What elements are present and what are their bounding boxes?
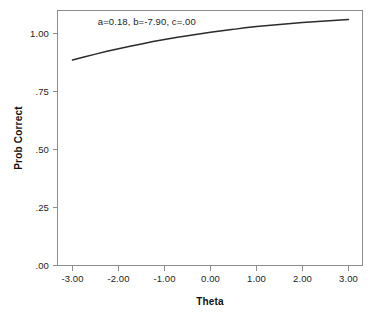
x-tick-label-neg1: -1.00 xyxy=(153,273,175,284)
y-axis-ticks xyxy=(53,34,58,266)
chart-container: 1.00 .75 .50 .25 .00 -3.00 -2.00 -1.00 0… xyxy=(0,0,384,320)
y-tick-label-000: .00 xyxy=(35,260,49,271)
y-tick-label-025: .25 xyxy=(35,202,49,213)
x-tick-label-1: 1.00 xyxy=(247,273,266,284)
x-axis-tick-labels: -3.00 -2.00 -1.00 0.00 1.00 2.00 3.00 xyxy=(61,273,358,284)
x-axis-title: Theta xyxy=(196,296,224,307)
plot-frame xyxy=(58,11,363,266)
y-tick-label-050: .50 xyxy=(35,144,49,155)
y-tick-label-1: 1.00 xyxy=(30,28,49,39)
irt-parameter-annotation: a=0.18, b=-7.90, c=.00 xyxy=(98,16,196,27)
y-axis-title: Prob Correct xyxy=(13,106,24,170)
x-axis-ticks xyxy=(73,266,349,271)
x-tick-label-neg2: -2.00 xyxy=(107,273,129,284)
x-tick-label-neg3: -3.00 xyxy=(61,273,83,284)
x-tick-label-0: 0.00 xyxy=(201,273,220,284)
x-tick-label-3: 3.00 xyxy=(339,273,358,284)
item-characteristic-curve-chart: 1.00 .75 .50 .25 .00 -3.00 -2.00 -1.00 0… xyxy=(0,0,384,320)
x-tick-label-2: 2.00 xyxy=(293,273,312,284)
y-axis-tick-labels: 1.00 .75 .50 .25 .00 xyxy=(30,28,49,271)
y-tick-label-075: .75 xyxy=(35,86,49,97)
